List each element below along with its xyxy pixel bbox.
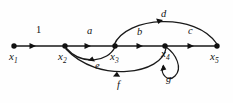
edge-e-arrowhead <box>88 56 95 61</box>
edge-label-e: e <box>95 61 100 72</box>
edge-label-a: a <box>87 26 92 37</box>
edge-g-arrowhead <box>160 65 166 71</box>
node-label-x5: x5 <box>210 51 219 65</box>
edge-label-d: d <box>161 9 166 20</box>
edge-label-g: g <box>166 74 171 85</box>
edge-label-b: b <box>137 27 142 38</box>
edge-b-arrowhead <box>137 43 144 49</box>
edge-label-1: 1 <box>36 25 41 36</box>
edge-group-e <box>66 47 115 62</box>
node-label-x1: x1 <box>9 51 18 65</box>
node-label-x4: x4 <box>161 48 170 62</box>
graph-figure: x1 x2 x3 x4 x5 1 a b c d e f g <box>0 0 233 103</box>
edge-a-arrowhead <box>85 43 92 49</box>
edge-label-f: f <box>117 80 120 91</box>
edge-label-c: c <box>188 26 193 37</box>
edge-f-arrowhead <box>113 72 120 77</box>
edge-d-path <box>114 22 217 45</box>
edge-c-arrowhead <box>188 43 195 49</box>
node-label-x3: x3 <box>110 51 119 65</box>
node-x5-dot <box>214 43 219 48</box>
edge-e-path <box>66 47 115 60</box>
node-x2-dot <box>62 43 67 48</box>
node-x3-dot <box>112 43 117 48</box>
edge-group-d <box>114 19 217 45</box>
edge-1-arrowhead <box>30 43 37 49</box>
node-x1-dot <box>11 43 16 48</box>
node-label-x2: x2 <box>58 51 67 65</box>
